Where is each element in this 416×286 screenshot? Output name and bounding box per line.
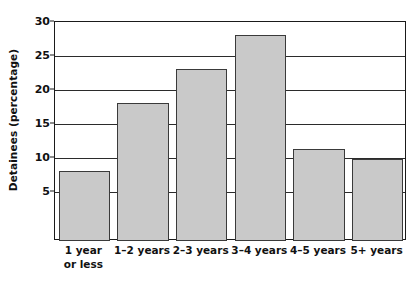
x-tick-label-0: 1 yearor less <box>54 244 113 271</box>
x-axis-tick-labels: 1 yearor less1–2 years2–3 years3–4 years… <box>54 244 406 286</box>
x-tick-label-3: 3–4 years <box>230 244 289 258</box>
x-tick-label-line1: 5+ years <box>351 244 403 256</box>
y-tick-label-15: 15 <box>35 117 50 130</box>
plot-area <box>54 21 406 240</box>
bars-series <box>55 22 405 239</box>
y-tick-label-20: 20 <box>35 83 50 96</box>
x-tick-label-5: 5+ years <box>347 244 406 258</box>
y-tick-label-5: 5 <box>42 185 50 198</box>
bar-4 <box>293 149 345 242</box>
x-tick-label-line1: 3–4 years <box>231 244 287 256</box>
bar-chart-figure: Detainees (percentage) 51015202530 1 yea… <box>0 0 416 286</box>
bar-2 <box>176 69 228 241</box>
x-tick-label-line1: 1 year <box>65 244 102 256</box>
x-tick-label-4: 4–5 years <box>289 244 348 258</box>
bar-5 <box>352 159 404 241</box>
x-tick-label-1: 1–2 years <box>113 244 172 258</box>
x-tick-label-2: 2–3 years <box>171 244 230 258</box>
y-tick-label-25: 25 <box>35 49 50 62</box>
y-tick-label-30: 30 <box>35 15 50 28</box>
y-tick-label-10: 10 <box>35 151 50 164</box>
y-axis-title-label: Detainees (percentage) <box>7 49 19 191</box>
x-tick-label-line2: or less <box>54 258 113 272</box>
y-axis-tick-labels: 51015202530 <box>26 0 54 250</box>
bar-0 <box>59 171 111 241</box>
bar-1 <box>117 103 169 241</box>
x-tick-label-line1: 1–2 years <box>114 244 170 256</box>
x-tick-label-line1: 2–3 years <box>173 244 229 256</box>
x-tick-label-line1: 4–5 years <box>290 244 346 256</box>
bar-3 <box>235 35 287 241</box>
y-axis-title: Detainees (percentage) <box>0 0 26 240</box>
